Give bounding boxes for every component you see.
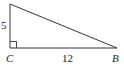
- triangle-diagram: 5 C 12 B: [0, 0, 124, 71]
- right-angle-marker: [10, 42, 17, 49]
- side-ac-label: 5: [1, 19, 7, 31]
- vertex-b-label: B: [112, 52, 119, 64]
- triangle: [10, 4, 117, 48]
- vertex-c-label: C: [6, 52, 14, 64]
- side-cb-label: 12: [62, 52, 73, 64]
